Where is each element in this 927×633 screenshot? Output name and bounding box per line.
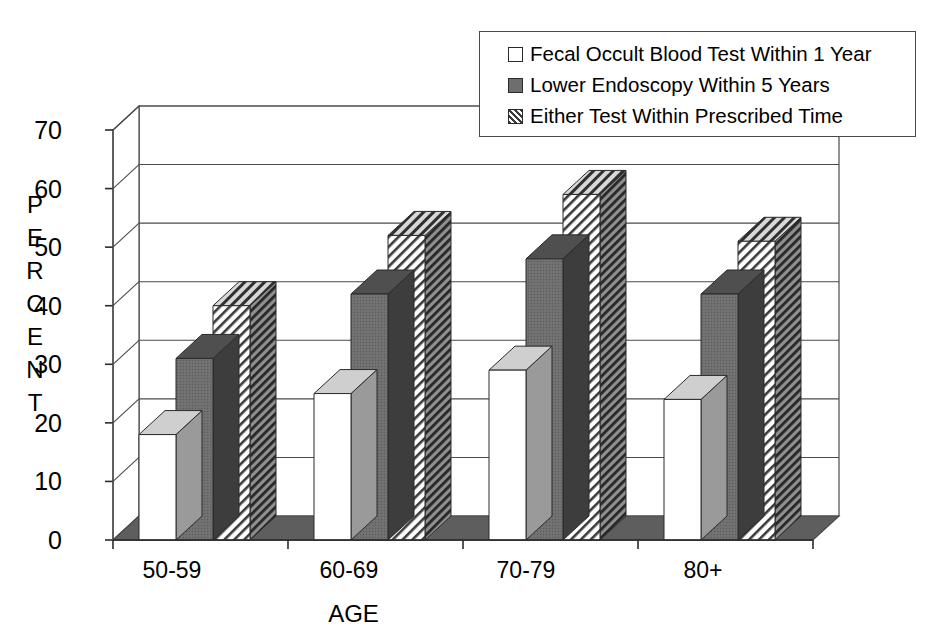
legend-label: Fecal Occult Blood Test Within 1 Year [530, 44, 871, 65]
bar-50-59-s1-side [213, 334, 239, 540]
x-tick-label-2: 70-79 [466, 559, 586, 582]
legend-label: Either Test Within Prescribed Time [530, 106, 843, 127]
chart-legend: Fecal Occult Blood Test Within 1 Year Lo… [479, 31, 916, 137]
bar-60-69-s2-side [425, 211, 451, 540]
legend-item-1: Lower Endoscopy Within 5 Years [508, 70, 915, 101]
chart-canvas: P E R C E N T 70 60 50 40 30 20 10 0 [0, 0, 927, 633]
white-square-icon [508, 47, 523, 62]
left-wall [113, 106, 139, 540]
bar-50-59-s2-side [250, 282, 276, 540]
bar-70-79-s0-side [526, 346, 552, 540]
bar-50-59-s0-face [139, 435, 176, 540]
x-tick-label-1: 60-69 [289, 559, 409, 582]
bar-80plus-s1-side [738, 270, 764, 540]
bar-60-69-s0-side [351, 370, 377, 540]
legend-label: Lower Endoscopy Within 5 Years [530, 75, 830, 96]
x-tick-label-0: 50-59 [112, 559, 232, 582]
bar-80plus-s0-face [664, 399, 701, 540]
bar-70-79-s0-face [489, 370, 526, 540]
bar-80plus-s0-side [701, 375, 727, 540]
legend-item-2: Either Test Within Prescribed Time [508, 101, 915, 132]
bar-60-69-s1-side [388, 270, 414, 540]
legend-item-0: Fecal Occult Blood Test Within 1 Year [508, 39, 915, 70]
bar-70-79-s2-side [600, 170, 626, 540]
x-tick-label-3: 80+ [643, 559, 763, 582]
bar-60-69-s0-face [314, 394, 351, 540]
hatched-square-icon [508, 109, 523, 124]
bar-70-79-s1-side [563, 235, 589, 540]
x-axis-title: AGE [0, 600, 817, 628]
gray-square-icon [508, 78, 523, 93]
bar-80plus-s2-side [775, 217, 801, 540]
